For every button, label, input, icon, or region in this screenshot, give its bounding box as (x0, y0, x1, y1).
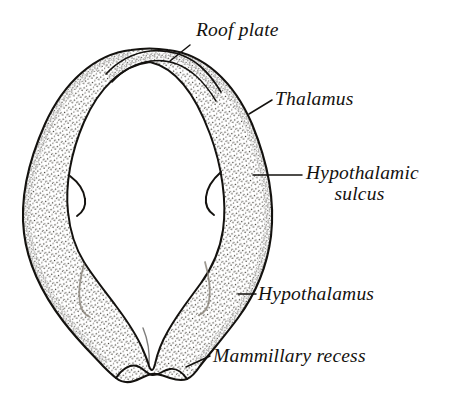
label-hypothalamic-sulcus: Hypothalamic sulcus (306, 162, 419, 204)
label-roof-plate: Roof plate (196, 19, 279, 40)
label-hypothalamic-sulcus-line1: Hypothalamic (306, 162, 419, 183)
label-thalamus: Thalamus (275, 88, 354, 109)
label-mammillary-recess: Mammillary recess (213, 345, 366, 366)
label-hypothalamus: Hypothalamus (258, 283, 374, 304)
anatomical-figure: Roof plate Thalamus Hypothalamic sulcus … (0, 0, 457, 403)
label-hypothalamic-sulcus-line2: sulcus (306, 183, 419, 204)
